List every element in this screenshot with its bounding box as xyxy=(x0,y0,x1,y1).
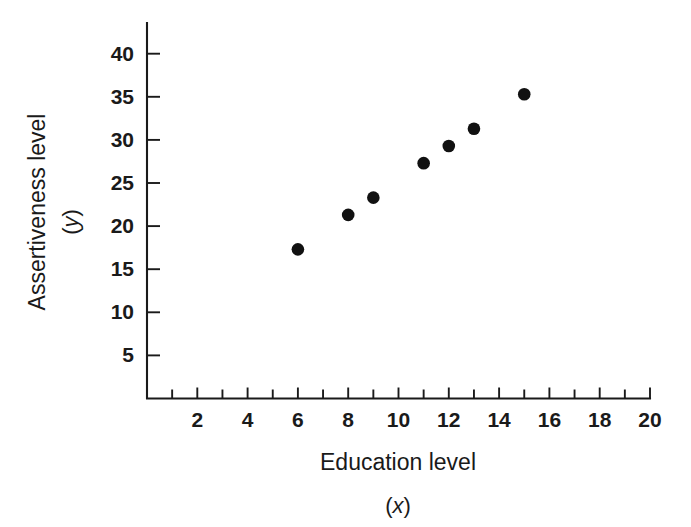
x-tick-label: 20 xyxy=(638,408,661,431)
data-point xyxy=(292,243,305,256)
x-tick-label: 2 xyxy=(191,408,203,431)
y-tick-label: 10 xyxy=(111,300,134,323)
y-tick-label: 20 xyxy=(111,214,134,237)
data-points-group xyxy=(292,88,531,256)
x-tick-label: 12 xyxy=(437,408,460,431)
scatter-plot-figure: 2468101214161820 510152025303540 Educati… xyxy=(0,0,691,527)
data-point xyxy=(518,88,531,101)
x-tick-label: 8 xyxy=(342,408,354,431)
x-tick-label: 6 xyxy=(292,408,304,431)
y-axis-title: Assertiveness level xyxy=(24,114,50,311)
axes-group xyxy=(147,23,650,399)
axis-spines xyxy=(147,23,650,399)
x-axis-variable-label: (x) xyxy=(385,493,411,518)
data-point xyxy=(367,191,380,204)
plot-canvas: 2468101214161820 510152025303540 Educati… xyxy=(0,0,691,527)
data-point xyxy=(417,157,430,170)
y-tick-label: 5 xyxy=(122,343,134,366)
data-point xyxy=(443,140,456,153)
x-tick-label: 4 xyxy=(242,408,254,431)
data-point xyxy=(342,209,355,222)
x-axis-ticks: 2468101214161820 xyxy=(172,388,662,431)
y-axis-variable-label: (y) xyxy=(58,209,83,235)
x-tick-label: 14 xyxy=(487,408,511,431)
y-tick-label: 15 xyxy=(111,257,135,280)
x-tick-label: 18 xyxy=(588,408,612,431)
y-axis-ticks: 510152025303540 xyxy=(111,42,160,367)
y-tick-label: 35 xyxy=(111,85,135,108)
data-point xyxy=(468,122,481,135)
y-tick-label: 40 xyxy=(111,42,134,65)
y-tick-label: 30 xyxy=(111,128,134,151)
x-tick-label: 10 xyxy=(387,408,410,431)
y-tick-label: 25 xyxy=(111,171,135,194)
x-axis-title: Education level xyxy=(320,449,476,475)
x-tick-label: 16 xyxy=(538,408,561,431)
